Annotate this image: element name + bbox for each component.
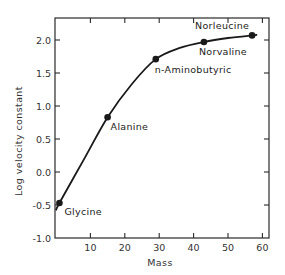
data-point <box>152 56 159 63</box>
point-label: Glycine <box>64 206 101 217</box>
point-label: Norvaline <box>199 46 247 57</box>
data-point <box>249 32 256 39</box>
point-label: Alanine <box>111 121 149 132</box>
point-label: Norleucine <box>195 20 249 31</box>
data-point <box>201 39 208 46</box>
chart: 102030405060 -1.0-0.50.00.51.01.52.0 Gly… <box>0 0 285 275</box>
y-axis-title: Log velocity constant <box>13 86 24 196</box>
y-tick-label: 0.0 <box>36 167 51 178</box>
y-tick-label: -1.0 <box>32 233 51 244</box>
y-tick-label: 1.5 <box>36 68 51 79</box>
point-label: n-Aminobutyric <box>155 64 232 75</box>
y-tick-label: 2.0 <box>36 35 51 46</box>
data-point <box>56 200 63 207</box>
y-tick-label: 0.5 <box>36 134 51 145</box>
x-tick-label: 60 <box>256 242 268 253</box>
y-tick-label: -0.5 <box>32 200 51 211</box>
x-tick-label: 40 <box>188 242 200 253</box>
y-tick-label: 1.0 <box>36 101 51 112</box>
data-points <box>56 32 255 206</box>
x-tick-label: 50 <box>222 242 234 253</box>
x-tick-label: 10 <box>84 242 96 253</box>
x-axis-title: Mass <box>147 257 173 268</box>
x-tick-label: 30 <box>153 242 165 253</box>
point-labels: GlycineAlaninen-AminobutyricNorvalineNor… <box>64 20 249 217</box>
data-point <box>104 114 111 121</box>
x-tick-label: 20 <box>119 242 131 253</box>
